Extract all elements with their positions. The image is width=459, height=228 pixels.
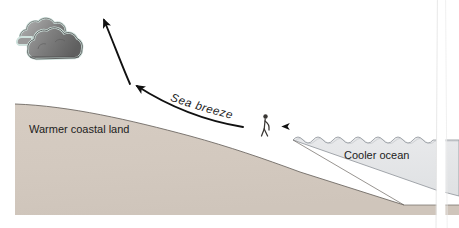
diagram-canvas: Warmer coastal land Cooler ocean Sea bre… — [0, 0, 459, 228]
cumulus-cloud — [17, 18, 83, 59]
person-leg-back — [262, 129, 265, 136]
page-edge-band — [436, 0, 447, 228]
sea-breeze-diagram: Warmer coastal land Cooler ocean Sea bre… — [0, 0, 459, 228]
person-arm — [265, 121, 269, 130]
edge-fold-line-right — [446, 0, 448, 228]
rising-air-arrow — [104, 20, 130, 84]
edge-white-strip — [437, 0, 446, 228]
ocean-label: Cooler ocean — [344, 149, 409, 161]
person-leg-front — [264, 129, 267, 136]
person-figure — [262, 114, 270, 136]
land-label: Warmer coastal land — [29, 123, 129, 135]
person-head — [263, 114, 267, 118]
